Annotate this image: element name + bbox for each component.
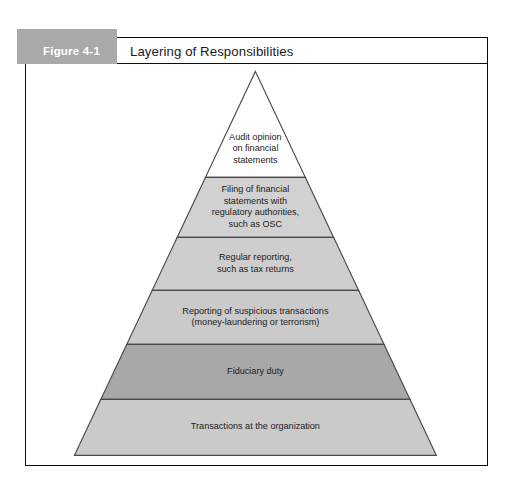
figure-header: Figure 4-1 Layering of Responsibilities: [26, 38, 487, 64]
pyramid-layer-label-2: Regular reporting,such as tax returns: [217, 253, 294, 274]
pyramid-diagram: Audit opinionon financialstatementsFilin…: [26, 64, 487, 465]
figure-title: Layering of Responsibilities: [130, 38, 293, 64]
pyramid-layer-label-5: Transactions at the organization: [191, 422, 320, 432]
figure-number-label: Figure 4-1: [26, 38, 117, 64]
pyramid-layer-label-4: Fiduciary duty: [227, 366, 284, 376]
figure-number-tab: Figure 4-1: [17, 29, 117, 64]
pyramid-layer-label-0: Audit opinionon financialstatements: [229, 132, 282, 165]
pyramid-layer-label-3: Reporting of suspicious transactions(mon…: [182, 306, 329, 327]
pyramid-svg: Audit opinionon financialstatementsFilin…: [26, 64, 487, 465]
figure-frame: Figure 4-1 Layering of Responsibilities …: [25, 37, 488, 466]
